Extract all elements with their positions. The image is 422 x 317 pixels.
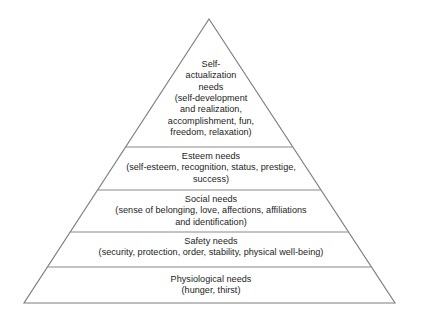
pyramid-outer-triangle: [24, 19, 395, 303]
pyramid-outline-svg: [0, 0, 422, 317]
maslow-pyramid-figure: Self- actualization needs (self-developm…: [0, 0, 422, 317]
